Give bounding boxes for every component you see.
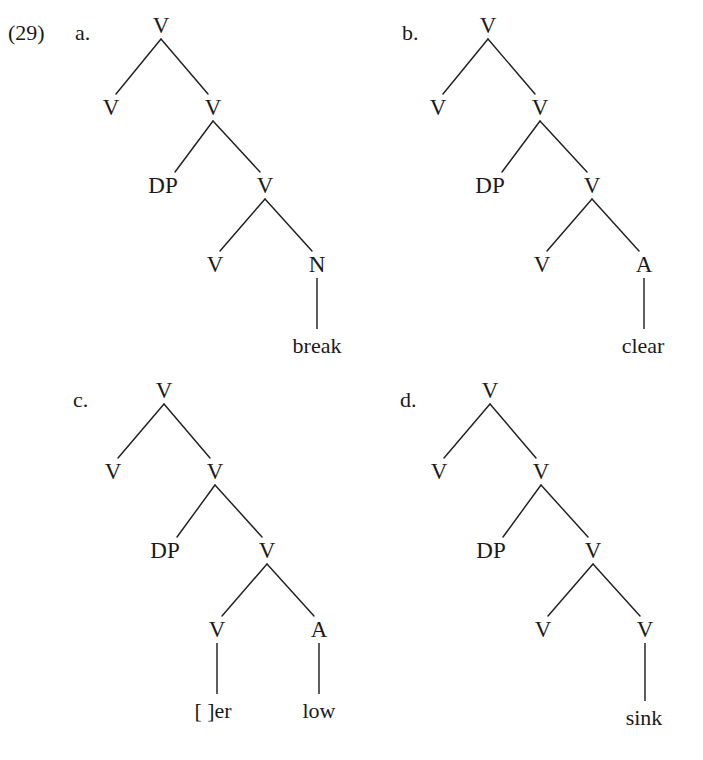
terminal-clear: clear — [622, 333, 665, 358]
node-vbar: V — [205, 95, 222, 120]
node-root-v: V — [637, 617, 654, 642]
branch-inner-v-to-root-a — [592, 199, 639, 251]
branch-vbar-to-dp — [503, 485, 541, 537]
branch-inner-v-to-leaf-v — [548, 564, 593, 616]
node-inner-v: V — [585, 538, 602, 563]
branch-root-to-vbar — [488, 39, 535, 94]
tree-letter-c: c. — [73, 387, 88, 412]
branch-inner-v-to-leaf-v — [547, 199, 592, 251]
node-vbar: V — [533, 459, 550, 484]
terminal-er: [ ]er — [194, 698, 232, 723]
syntax-tree-canvas: (29)a.VVVDPVVNbreakb.VVVDPVVAclearc.VVVD… — [0, 0, 703, 760]
branch-vbar-to-inner-v — [540, 121, 587, 172]
tree-letter-a: a. — [75, 20, 90, 45]
branch-inner-v-to-leaf-v — [222, 564, 267, 616]
node-vbar: V — [532, 95, 549, 120]
branch-inner-v-to-leaf-v — [220, 199, 265, 251]
node-leaf-v: V — [209, 617, 226, 642]
node-root: V — [156, 378, 173, 403]
terminal-break: break — [293, 333, 342, 358]
node-inner-v: V — [584, 173, 601, 198]
branch-inner-v-to-root-v — [593, 564, 640, 616]
tree-b: b.VVVDPVVAclear — [402, 13, 665, 358]
node-inner-v: V — [257, 173, 274, 198]
branch-vbar-to-inner-v — [215, 485, 262, 537]
branch-root-to-spec-v — [118, 404, 164, 458]
node-dp: DP — [148, 173, 177, 198]
tree-letter-b: b. — [402, 20, 419, 45]
branch-root-to-spec-v — [443, 39, 488, 94]
tree-letter-d: d. — [400, 387, 417, 412]
node-root-n: N — [309, 252, 326, 277]
node-root: V — [480, 13, 497, 38]
node-root-a: A — [311, 617, 328, 642]
branch-vbar-to-inner-v — [541, 485, 588, 537]
tree-c: c.VVVDPVVA[ ]erlow — [73, 378, 336, 723]
node-vbar: V — [207, 459, 224, 484]
node-root-a: A — [636, 252, 653, 277]
syntax-figure: (29)a.VVVDPVVNbreakb.VVVDPVVAclearc.VVVD… — [0, 0, 703, 760]
node-leaf-v: V — [534, 252, 551, 277]
branch-root-to-vbar — [164, 404, 210, 458]
node-leaf-v: V — [535, 617, 552, 642]
node-spec-v: V — [103, 95, 120, 120]
branch-vbar-to-dp — [502, 121, 540, 172]
node-root: V — [153, 13, 170, 38]
branch-root-to-spec-v — [116, 39, 161, 94]
node-dp: DP — [476, 538, 505, 563]
tree-d: d.VVVDPVVVsink — [400, 378, 662, 730]
terminal-low: low — [303, 698, 336, 723]
node-dp: DP — [475, 173, 504, 198]
branch-vbar-to-dp — [175, 121, 213, 172]
branch-root-to-vbar — [490, 404, 536, 458]
example-number: (29) — [8, 20, 45, 45]
branch-inner-v-to-root-n — [265, 199, 312, 251]
node-inner-v: V — [259, 538, 276, 563]
tree-a: a.VVVDPVVNbreak — [75, 13, 341, 358]
node-dp: DP — [150, 538, 179, 563]
branch-vbar-to-dp — [177, 485, 215, 537]
node-root: V — [482, 378, 499, 403]
node-spec-v: V — [105, 459, 122, 484]
branch-inner-v-to-root-a — [267, 564, 314, 616]
node-spec-v: V — [431, 459, 448, 484]
node-spec-v: V — [430, 95, 447, 120]
branch-root-to-spec-v — [444, 404, 490, 458]
terminal-sink: sink — [626, 705, 663, 730]
branch-root-to-vbar — [161, 39, 208, 94]
branch-vbar-to-inner-v — [213, 121, 260, 172]
node-leaf-v: V — [207, 252, 224, 277]
